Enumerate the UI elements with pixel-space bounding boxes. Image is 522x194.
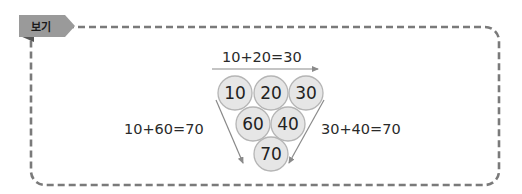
example-box: 보기 10+20=30 10 20 30 60 40 70 10+60=70 3… <box>0 0 522 194</box>
left-equation: 10+60=70 <box>124 121 204 137</box>
circle-value: 20 <box>260 83 282 103</box>
circle-value: 60 <box>242 114 264 134</box>
right-equation: 30+40=70 <box>321 121 401 137</box>
tag-label: 보기 <box>31 20 51 34</box>
circle-value: 40 <box>277 114 299 134</box>
circle-value: 70 <box>260 144 282 164</box>
example-tag: 보기 <box>19 15 75 42</box>
circle-value: 10 <box>224 83 246 103</box>
top-equation: 10+20=30 <box>222 49 302 65</box>
circle-value: 30 <box>295 83 317 103</box>
